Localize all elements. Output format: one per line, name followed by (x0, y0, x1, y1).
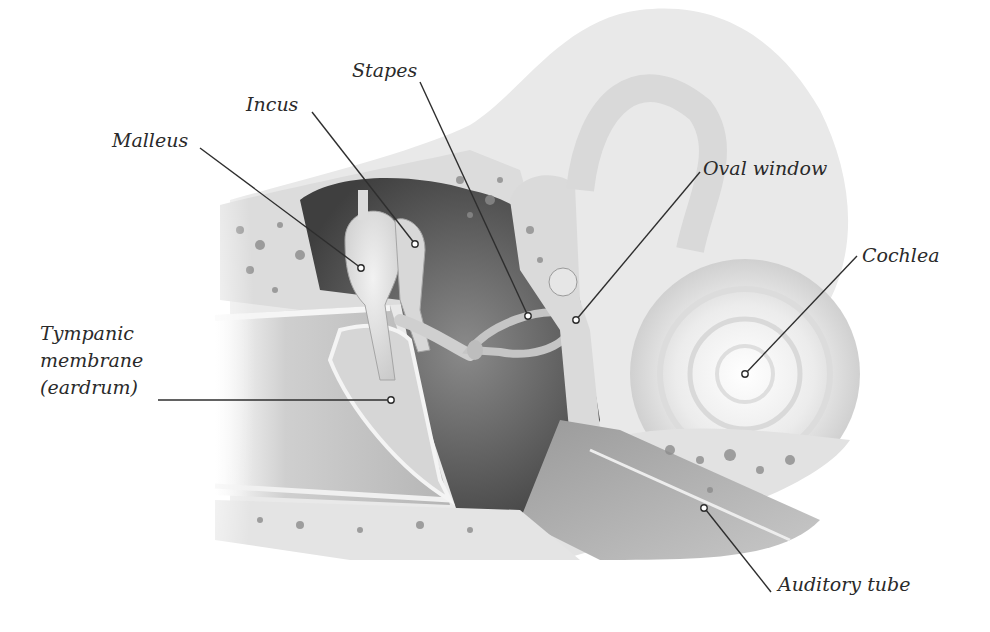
ear-anatomy-diagram: Malleus Incus Stapes Oval window Cochlea… (0, 0, 990, 632)
endpoint-tympanic-membrane-icon (388, 397, 394, 403)
ear-illustration (0, 0, 990, 632)
endpoint-cochlea-icon (742, 371, 748, 377)
label-malleus: Malleus (112, 128, 188, 152)
label-oval-window: Oval window (703, 156, 827, 180)
endpoint-auditory-tube-icon (701, 505, 707, 511)
endpoint-stapes-icon (525, 313, 531, 319)
endpoint-incus-icon (412, 241, 418, 247)
label-auditory-tube: Auditory tube (778, 572, 910, 596)
endpoint-oval-window-icon (573, 317, 579, 323)
nerve-bundle (549, 268, 577, 296)
label-tympanic-membrane: Tympanic membrane (eardrum) (40, 320, 143, 401)
endpoint-malleus-icon (358, 265, 364, 271)
label-stapes: Stapes (352, 58, 417, 82)
label-cochlea: Cochlea (862, 243, 940, 267)
label-incus: Incus (246, 92, 298, 116)
